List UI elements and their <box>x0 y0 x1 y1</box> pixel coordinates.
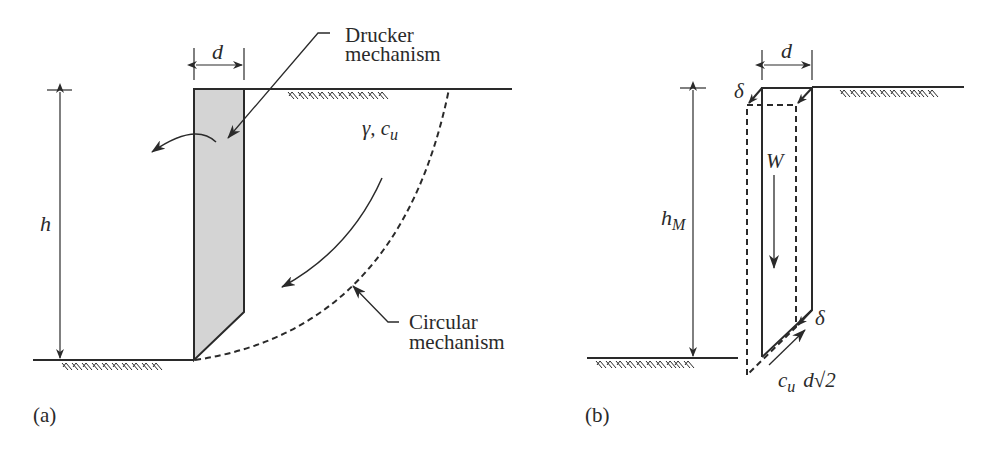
height-label-a: h <box>40 211 51 236</box>
panel-b: δ δ W cud√2 hM d (b) <box>585 38 964 427</box>
panel-a: h d Drucker mechanism Circular mechanism… <box>33 23 512 427</box>
drucker-label-line2: mechanism <box>345 42 441 66</box>
sliding-arrow-icon <box>282 178 382 287</box>
caption-b: (b) <box>585 403 610 427</box>
circular-label-line2: mechanism <box>409 330 505 354</box>
diagram-svg: h d Drucker mechanism Circular mechanism… <box>0 0 993 454</box>
displacement-label-bottom: δ <box>815 306 826 330</box>
width-label-b: d <box>781 38 793 63</box>
soil-properties-label: γ, cu <box>362 116 398 143</box>
drucker-block <box>194 89 244 360</box>
wedge-displaced-outline <box>747 105 796 375</box>
displacement-arrow-top-right <box>798 88 812 103</box>
width-label-a: d <box>212 39 224 64</box>
displacement-label-top: δ <box>734 79 745 103</box>
height-label-b: hM <box>661 205 687 233</box>
displacement-arrow-top-left <box>749 88 762 103</box>
weight-label: W <box>766 149 786 173</box>
diagram-canvas: h d Drucker mechanism Circular mechanism… <box>0 0 993 454</box>
caption-a: (a) <box>33 403 56 427</box>
circular-leader-arrow <box>353 286 399 322</box>
displacement-arrow-bottom <box>798 310 812 325</box>
soil-hatch-icon <box>596 90 938 368</box>
shear-label: cud√2 <box>778 368 836 395</box>
